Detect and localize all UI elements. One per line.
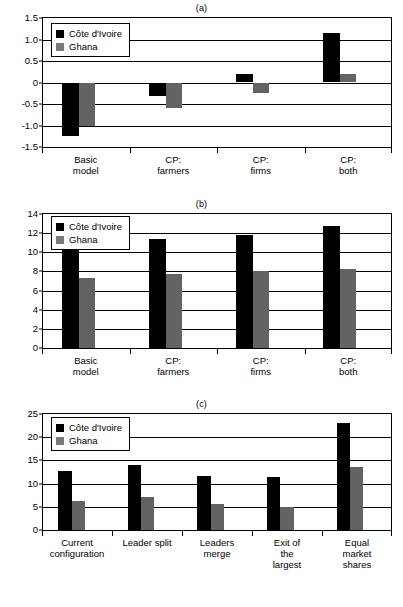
bar-cote-divoire (128, 465, 141, 530)
y-axis-tick-label: -1.0 (22, 121, 38, 131)
panel-c-plot-wrap: 2520151050 Côte d'Ivoire Ghana (42, 413, 392, 531)
x-axis-tick-mark (305, 148, 306, 153)
x-axis-category-label: CP: firms (217, 355, 305, 377)
bar-cote-divoire (62, 248, 79, 349)
bar-cote-divoire (62, 83, 79, 137)
x-axis-category-label: CP: both (305, 154, 393, 176)
figure-bar-charts: (a) 1.51.00.50-0.5-1.0-1.5 Côte d'Ivoire… (0, 0, 403, 607)
y-axis-tick-label: 2 (33, 324, 38, 334)
panel-b-plot-wrap: 14121086420 Côte d'Ivoire Ghana (42, 213, 392, 349)
x-axis-tick-mark (182, 531, 183, 536)
bar-cote-divoire (267, 477, 280, 530)
x-axis-tick-mark (391, 531, 392, 536)
y-axis-tick-label: -1.5 (22, 142, 38, 152)
legend-swatch-cote-divoire-icon (56, 424, 64, 432)
bar-cote-divoire (236, 235, 253, 348)
x-axis-tick-mark (391, 349, 392, 354)
y-axis-tick-label: 0 (33, 78, 38, 88)
y-axis-tick-label: 10 (27, 247, 38, 257)
y-axis-tick-label: 6 (33, 286, 38, 296)
x-axis-tick-mark (391, 148, 392, 153)
legend-swatch-cote-divoire-icon (56, 223, 64, 231)
legend-swatch-cote-divoire-icon (56, 30, 64, 38)
panel-a-title: (a) (0, 0, 403, 17)
bar-group (130, 214, 217, 348)
x-axis-category-label: Current configuration (42, 537, 112, 570)
x-axis-category-label: Leader split (112, 537, 182, 570)
panel-b-category-labels: Basic modelCP: farmersCP: firmsCP: both (42, 355, 392, 377)
legend-label-cote-divoire: Côte d'Ivoire (69, 422, 122, 433)
bar-cote-divoire (236, 74, 253, 83)
x-axis-category-label: Exit of the largest (252, 537, 322, 570)
panel-c-legend: Côte d'Ivoire Ghana (51, 417, 130, 451)
bar-ghana (340, 74, 357, 82)
legend-label-ghana: Ghana (69, 41, 98, 52)
x-axis-category-label: CP: farmers (130, 355, 218, 377)
legend-row-ghana: Ghana (56, 434, 122, 447)
bar-cote-divoire (58, 471, 71, 530)
bar-ghana (340, 269, 357, 348)
y-axis-tick-label: 1.0 (25, 35, 38, 45)
x-axis-tick-mark (130, 148, 131, 153)
bar-cote-divoire (323, 33, 340, 82)
bar-ghana (253, 271, 270, 348)
panel-a: (a) 1.51.00.50-0.5-1.0-1.5 Côte d'Ivoire… (0, 0, 403, 196)
y-axis-tick-label: 25 (27, 409, 38, 419)
panel-a-legend: Côte d'Ivoire Ghana (51, 23, 130, 57)
x-axis-tick-mark (305, 349, 306, 354)
x-axis-tick-mark (217, 148, 218, 153)
panel-a-plot-wrap: 1.51.00.50-0.5-1.0-1.5 Côte d'Ivoire Gha… (42, 17, 392, 148)
panel-b-legend: Côte d'Ivoire Ghana (51, 216, 130, 250)
bar-cote-divoire (197, 476, 210, 530)
panel-c-category-labels: Current configurationLeader splitLeaders… (42, 537, 392, 570)
bar-ghana (166, 274, 183, 348)
legend-row-ghana: Ghana (56, 233, 122, 246)
bar-ghana (79, 83, 96, 126)
legend-label-ghana: Ghana (69, 435, 98, 446)
x-axis-category-label: CP: both (305, 355, 393, 377)
panel-a-category-labels: Basic modelCP: farmersCP: firmsCP: both (42, 154, 392, 176)
y-axis-tick-label: 1.5 (25, 13, 38, 23)
bar-cote-divoire (149, 239, 166, 348)
y-axis-tick-label: 12 (27, 228, 38, 238)
bar-ghana (253, 83, 270, 94)
legend-swatch-ghana-icon (56, 236, 64, 244)
x-axis-category-label: Equal market shares (322, 537, 392, 570)
legend-swatch-ghana-icon (56, 43, 64, 51)
y-axis-tick-label: 0.5 (25, 56, 38, 66)
bar-ghana (211, 504, 224, 530)
bar-ghana (72, 501, 85, 530)
x-axis-tick-mark (130, 349, 131, 354)
y-axis-tick-label: 0 (33, 525, 38, 535)
bar-group (130, 18, 217, 147)
bar-group (252, 414, 322, 530)
panel-c-title: (c) (0, 396, 403, 413)
legend-label-cote-divoire: Côte d'Ivoire (69, 28, 122, 39)
x-axis-category-label: Basic model (42, 355, 130, 377)
bar-group (304, 214, 391, 348)
bar-ghana (166, 83, 183, 109)
x-axis-category-label: CP: farmers (130, 154, 218, 176)
x-axis-tick-mark (322, 531, 323, 536)
y-axis-tick-label: 14 (27, 209, 38, 219)
x-axis-category-label: CP: firms (217, 154, 305, 176)
panel-b: (b) 14121086420 Côte d'Ivoire Ghana Basi… (0, 196, 403, 396)
y-axis-tick-label: 20 (27, 432, 38, 442)
legend-row-ghana: Ghana (56, 40, 122, 53)
bar-ghana (280, 507, 293, 530)
legend-row-cote-divoire: Côte d'Ivoire (56, 220, 122, 233)
bar-ghana (79, 278, 96, 348)
bar-group (304, 18, 391, 147)
x-axis-category-label: Basic model (42, 154, 130, 176)
legend-swatch-ghana-icon (56, 437, 64, 445)
bar-ghana (141, 497, 154, 530)
y-axis-tick-label: 5 (33, 502, 38, 512)
bar-group (182, 414, 252, 530)
bar-ghana (350, 467, 363, 530)
bar-group (217, 214, 304, 348)
y-axis-tick-label: 8 (33, 266, 38, 276)
legend-row-cote-divoire: Côte d'Ivoire (56, 27, 122, 40)
legend-label-cote-divoire: Côte d'Ivoire (69, 221, 122, 232)
y-axis-tick-label: -0.5 (22, 99, 38, 109)
bar-group (217, 18, 304, 147)
